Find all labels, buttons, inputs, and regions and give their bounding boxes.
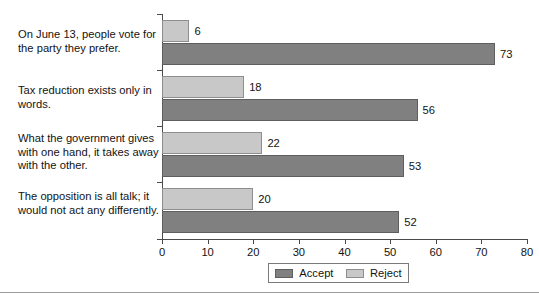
value-axis-tick-label: 60 [430, 246, 442, 258]
value-axis-tick [299, 239, 300, 244]
value-axis-tick [527, 239, 528, 244]
value-axis-tick [208, 239, 209, 244]
bar-accept-2[interactable] [162, 155, 404, 177]
category-label-2-line1: What the government gives [18, 132, 160, 146]
legend-entry-accept[interactable]: Accept [275, 267, 333, 279]
value-axis-tick-label: 50 [384, 246, 396, 258]
value-axis-tick-label: 20 [247, 246, 259, 258]
category-label-1-line2: words. [18, 98, 160, 112]
value-axis-tick-label: 70 [475, 246, 487, 258]
legend-label-accept: Accept [299, 267, 333, 279]
value-axis-tick-label: 80 [521, 246, 533, 258]
legend-swatch-accept-icon [275, 269, 293, 278]
category-label-2-line2: with one hand, it takes away [18, 146, 160, 160]
value-axis-tick [345, 239, 346, 244]
bar-value-reject-3: 20 [258, 193, 270, 205]
bar-chart: On June 13, people vote for the party th… [0, 0, 539, 305]
value-axis-tick [436, 239, 437, 244]
value-axis-tick [390, 239, 391, 244]
bar-accept-0[interactable] [162, 43, 495, 65]
value-axis-tick [481, 239, 482, 244]
category-label-2: What the government gives with one hand,… [18, 132, 160, 173]
bar-reject-0[interactable] [162, 20, 189, 42]
category-label-0-line2: the party they prefer. [18, 42, 160, 56]
value-axis-tick-label: 40 [338, 246, 350, 258]
category-label-0-line1: On June 13, people vote for [18, 28, 160, 42]
value-axis-tick-label: 10 [201, 246, 213, 258]
bar-reject-2[interactable] [162, 132, 262, 154]
category-label-3-line1: The opposition is all talk; it [18, 190, 160, 204]
bar-value-accept-0: 73 [500, 48, 512, 60]
category-label-1-line1: Tax reduction exists only in [18, 84, 160, 98]
category-label-3-line2: would not act any differently. [18, 204, 160, 218]
legend: Accept Reject [268, 263, 409, 283]
bar-value-accept-3: 52 [404, 216, 416, 228]
legend-entry-reject[interactable]: Reject [346, 267, 402, 279]
bar-value-accept-1: 56 [423, 104, 435, 116]
value-axis-tick [162, 239, 163, 244]
bar-accept-1[interactable] [162, 99, 418, 121]
bar-value-accept-2: 53 [409, 160, 421, 172]
category-label-3: The opposition is all talk; it would not… [18, 190, 160, 217]
category-label-group: On June 13, people vote for the party th… [0, 0, 162, 250]
category-label-0: On June 13, people vote for the party th… [18, 28, 160, 55]
bar-value-reject-2: 22 [267, 137, 279, 149]
category-label-1: Tax reduction exists only in words. [18, 84, 160, 111]
bar-group: 673185622532052 [162, 14, 527, 239]
bar-reject-3[interactable] [162, 188, 253, 210]
value-axis-tick-label: 0 [159, 246, 165, 258]
value-axis-tick [253, 239, 254, 244]
category-label-2-line3: with the other. [18, 159, 160, 173]
value-axis-tick-label: 30 [293, 246, 305, 258]
legend-label-reject: Reject [370, 267, 402, 279]
bar-value-reject-0: 6 [194, 25, 200, 37]
bar-reject-1[interactable] [162, 76, 244, 98]
footer-divider [0, 292, 539, 293]
bar-accept-3[interactable] [162, 211, 399, 233]
legend-swatch-reject-icon [346, 269, 364, 278]
bar-value-reject-1: 18 [249, 81, 261, 93]
